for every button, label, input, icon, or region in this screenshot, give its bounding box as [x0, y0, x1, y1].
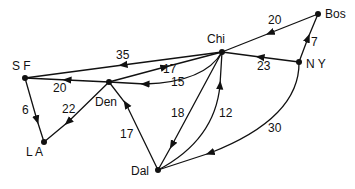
weight-chi-den: 15	[171, 76, 184, 88]
node-label-sf: S F	[12, 60, 31, 72]
weight-bos-chi: 20	[268, 14, 281, 26]
weight-den-sf: 20	[53, 82, 66, 94]
node-label-chi: Chi	[207, 33, 225, 45]
weight-dal-den: 17	[120, 128, 133, 140]
node-label-bos: Bos	[325, 8, 346, 20]
weight-ny-bos: 7	[311, 36, 318, 48]
weight-chi-sf: 35	[116, 49, 129, 61]
weight-ny-chi: 23	[257, 60, 270, 72]
weight-sf-la: 6	[22, 104, 29, 116]
weight-ny-dal: 30	[268, 122, 281, 134]
node-ny	[296, 59, 302, 65]
weight-den-chi: 17	[163, 63, 176, 75]
weight-chi-dal: 18	[171, 107, 184, 119]
weight-den-la: 22	[62, 103, 75, 115]
edge-den-sf	[25, 78, 109, 82]
node-label-ny: N Y	[306, 58, 326, 70]
weight-dal-chi: 12	[219, 107, 232, 119]
node-den	[106, 79, 112, 85]
node-label-den: Den	[95, 96, 117, 108]
node-sf	[22, 75, 28, 81]
node-chi	[219, 49, 225, 55]
node-label-dal: Dal	[131, 165, 149, 177]
node-label-la: L A	[26, 146, 43, 158]
node-bos	[315, 11, 321, 17]
node-dal	[155, 167, 161, 173]
